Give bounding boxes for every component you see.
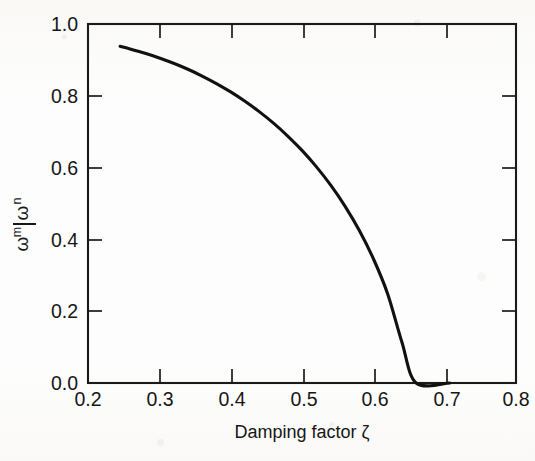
y-axis-label-numerator: ω [11, 236, 32, 251]
y-tick-label: 0.0 [51, 372, 78, 394]
plot-frame [88, 24, 516, 383]
x-tick-label: 0.7 [433, 388, 460, 410]
y-tick-label: 0.6 [51, 157, 78, 179]
y-tick-label: 0.4 [51, 229, 78, 251]
x-tick-label: 0.8 [502, 388, 529, 410]
data-curve-resonant-frequency-ratio [120, 46, 450, 386]
x-tick-label: 0.2 [74, 388, 101, 410]
y-tick-labels: 0.0 0.2 0.4 0.6 0.8 1.0 [51, 13, 78, 394]
x-tick-label: 0.3 [146, 388, 173, 410]
y-axis-label-denominator: ω [11, 205, 32, 220]
y-tick-label: 0.2 [51, 300, 78, 322]
figure-canvas: 0.2 0.3 0.4 0.5 0.6 0.7 0.8 0.0 0.2 0.4 … [0, 0, 535, 461]
y-axis-label: ω m ω n [10, 197, 36, 251]
x-tick-label: 0.4 [218, 388, 245, 410]
chart-plot: 0.2 0.3 0.4 0.5 0.6 0.7 0.8 0.0 0.2 0.4 … [0, 0, 535, 461]
y-axis-ticks [88, 96, 102, 311]
y-tick-label: 0.8 [51, 85, 78, 107]
y-axis-label-denominator-subscript: n [10, 197, 24, 204]
x-axis-ticks [160, 369, 447, 383]
x-tick-labels: 0.2 0.3 0.4 0.5 0.6 0.7 0.8 [74, 388, 529, 410]
x-axis-ticks-top [160, 24, 447, 38]
x-tick-label: 0.6 [361, 388, 388, 410]
y-axis-label-numerator-subscript: m [10, 227, 24, 237]
y-axis-ticks-right [502, 96, 516, 311]
y-tick-label: 1.0 [51, 13, 78, 35]
x-axis-label: Damping factor ζ [235, 422, 370, 442]
x-tick-label: 0.5 [290, 388, 317, 410]
